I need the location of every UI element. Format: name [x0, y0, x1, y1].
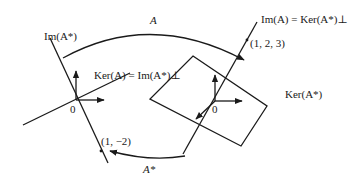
map-a-label: A — [149, 14, 157, 26]
im-a-label: Im(A) = Ker(A*)⊥ — [261, 13, 348, 26]
map-a-star-arrow — [110, 151, 185, 158]
left-space: 0 Im(A*) Ker(A) = Im(A*)⊥ (1, −2) — [23, 30, 181, 163]
map-a-star-label: A* — [142, 163, 156, 175]
right-space: 0 Im(A) = Ker(A*)⊥ (1, 2, 3) Ker(A*) — [150, 13, 348, 154]
im-a-star-label: Im(A*) — [44, 30, 77, 43]
map-a-arrow — [63, 34, 244, 60]
point-1-minus2-label: (1, −2) — [101, 135, 131, 148]
ker-a-star-label: Ker(A*) — [285, 88, 323, 101]
im-a-line — [183, 22, 257, 154]
right-origin-label: 0 — [212, 103, 218, 115]
point-1-minus2-dot — [100, 150, 103, 153]
point-123-dot — [246, 39, 249, 42]
left-origin-label: 0 — [70, 103, 76, 115]
point-123-label: (1, 2, 3) — [250, 37, 285, 50]
ker-a-label: Ker(A) = Im(A*)⊥ — [94, 69, 181, 82]
subspaces-diagram: 0 Im(A*) Ker(A) = Im(A*)⊥ (1, −2) 0 Im(A… — [0, 0, 349, 181]
